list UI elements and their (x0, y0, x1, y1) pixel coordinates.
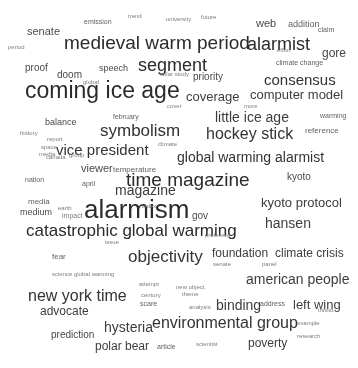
cloud-word: scientist (196, 341, 218, 347)
cloud-word: hockey stick (206, 126, 293, 142)
cloud-word: kyoto (287, 172, 311, 182)
cloud-word: history (20, 130, 38, 136)
cloud-word: hysteria (104, 320, 153, 334)
cloud-word: gore (322, 47, 346, 59)
cloud-word: temperature (113, 166, 156, 174)
cloud-word: senate (27, 26, 60, 37)
cloud-word: threat (318, 307, 333, 313)
cloud-word: advocate (40, 305, 89, 317)
cloud-word: future (201, 14, 216, 20)
cloud-word: more (244, 103, 258, 109)
cloud-word: warming (320, 112, 346, 119)
cloud-word: index (142, 203, 156, 209)
cloud-word: binding (216, 298, 261, 312)
cloud-word: senate (213, 261, 231, 267)
cloud-word: computer model (250, 88, 343, 101)
cloud-word: issue (105, 239, 119, 245)
cloud-word: speech (99, 64, 128, 73)
cloud-word: university (166, 16, 191, 22)
cloud-word: media (39, 151, 55, 157)
cloud-word: medieval warm period (64, 33, 250, 52)
cloud-word: nation (25, 176, 44, 183)
cloud-word: proof (25, 63, 48, 73)
cloud-word: magazine (115, 183, 176, 197)
cloud-word: attempt (139, 281, 159, 287)
cloud-word: climate crisis (275, 247, 344, 259)
cloud-word: claim (318, 26, 334, 33)
cloud-word: space (41, 144, 57, 150)
cloud-word: new object (176, 284, 205, 290)
cloud-word: new york time (28, 288, 127, 304)
cloud-word: address (260, 300, 285, 307)
cloud-word: consensus (264, 72, 336, 87)
cloud-word: doom (57, 70, 82, 80)
cloud-word: research (297, 333, 320, 339)
cloud-word: example (297, 320, 320, 326)
cloud-word: addition (288, 20, 320, 29)
cloud-word: group (69, 152, 84, 158)
cloud-word: century (141, 292, 161, 298)
cloud-word: symbolism (100, 122, 180, 139)
cloud-word: april (82, 180, 95, 187)
cloud-word: theme (182, 291, 199, 297)
cloud-word: earth (58, 205, 72, 211)
word-cloud: alarmismcoming ice agemedieval warm peri… (0, 0, 358, 368)
cloud-word: report (47, 136, 63, 142)
cloud-word: coming ice age (25, 79, 180, 102)
cloud-word: scare (140, 300, 157, 307)
cloud-word: objectivity (128, 248, 203, 265)
cloud-word: solar study (160, 71, 189, 77)
cloud-word: effort (277, 47, 291, 53)
cloud-word: american people (246, 272, 350, 286)
cloud-word: panel (262, 261, 277, 267)
cloud-word: prediction (51, 330, 94, 340)
cloud-word: alarmism (84, 196, 189, 222)
cloud-word: analysis (189, 304, 211, 310)
cloud-word: priority (193, 72, 223, 82)
cloud-word: climate (158, 141, 177, 147)
cloud-word: fear (52, 253, 66, 261)
cloud-word: medium (20, 208, 52, 217)
cloud-word: hansen (265, 216, 311, 230)
cloud-word: article (157, 343, 176, 350)
cloud-word: coverage (186, 90, 239, 103)
cloud-word: left wing (293, 298, 341, 311)
cloud-word: gov (192, 211, 208, 221)
cloud-word: reference (305, 127, 339, 135)
cloud-word: cover (167, 103, 182, 109)
cloud-word: little ice age (215, 110, 289, 124)
cloud-word: emission (84, 18, 112, 25)
cloud-word: impact (62, 212, 83, 219)
cloud-word: kyoto protocol (261, 196, 342, 209)
cloud-word: viewer (81, 163, 113, 174)
cloud-word: global warming alarmist (177, 150, 324, 164)
cloud-word: environmental group (152, 315, 298, 331)
cloud-word: science global warming (52, 271, 114, 277)
cloud-word: trend (128, 13, 142, 19)
cloud-word: polar bear (95, 340, 149, 352)
cloud-word: media (28, 198, 50, 206)
cloud-word: poverty (248, 337, 287, 349)
cloud-word: period (8, 44, 25, 50)
cloud-word: balance (45, 118, 77, 127)
cloud-word: global (83, 79, 99, 85)
cloud-word: february (113, 113, 139, 120)
cloud-word: professor (205, 232, 230, 238)
cloud-word: foundation (212, 247, 268, 259)
cloud-word: web (256, 18, 276, 29)
cloud-word: climate change (276, 59, 323, 66)
